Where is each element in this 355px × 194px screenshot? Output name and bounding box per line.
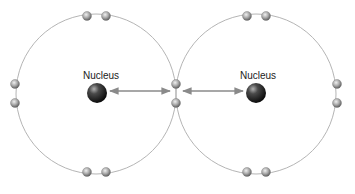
left-atom-nucleus <box>87 83 107 103</box>
electron-right-side <box>333 99 342 108</box>
right-atom-nucleus <box>246 83 266 103</box>
electron-right-top <box>243 12 252 21</box>
electron-right-bottom <box>262 168 271 177</box>
electron-right-top <box>262 12 271 21</box>
electron-right-bottom <box>243 168 252 177</box>
electron-left-top <box>102 12 111 21</box>
electron-left-bottom <box>102 168 111 177</box>
electron-left-bottom <box>83 168 92 177</box>
orbit-group <box>16 14 336 174</box>
electron-shared <box>172 80 181 89</box>
nucleus-label: Nucleus <box>240 70 276 81</box>
covalent-bond-diagram: NucleusNucleus <box>0 0 355 194</box>
electron-right-side <box>333 80 342 89</box>
nucleus-label: Nucleus <box>83 70 119 81</box>
electron-left-side <box>11 99 20 108</box>
electron-left-side <box>11 80 20 89</box>
electron-shared <box>172 99 181 108</box>
electron-left-top <box>83 12 92 21</box>
